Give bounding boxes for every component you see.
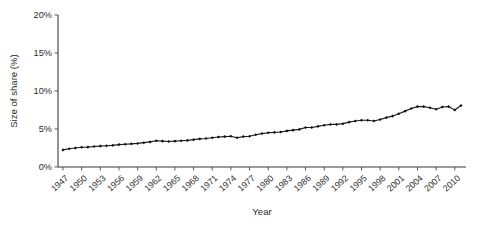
x-tick-label-8: 1971 [198, 173, 219, 194]
x-tick-label-6: 1965 [161, 173, 182, 194]
data-point-15 [155, 139, 158, 142]
data-point-18 [173, 140, 176, 143]
x-tick-label-2: 1953 [86, 173, 107, 194]
y-tick-label-1: 5% [39, 124, 52, 134]
x-tick-label-16: 1995 [348, 173, 369, 194]
data-point-53 [391, 115, 394, 118]
x-tick-label-3: 1956 [105, 173, 126, 194]
y-tick-label-4: 20% [34, 10, 52, 20]
x-tick-label-11: 1980 [254, 173, 275, 194]
x-tick-label-7: 1968 [180, 173, 201, 194]
data-point-33 [267, 131, 270, 134]
data-point-60 [435, 108, 438, 111]
data-point-8 [111, 144, 114, 147]
x-tick-label-0: 1947 [49, 173, 70, 194]
data-point-34 [273, 131, 276, 134]
data-point-50 [372, 119, 375, 122]
x-tick-label-17: 1998 [366, 173, 387, 194]
data-point-58 [422, 105, 425, 108]
y-tick-label-3: 15% [34, 48, 52, 58]
data-series-size-of-share [61, 104, 462, 152]
data-point-40 [310, 126, 313, 129]
data-point-6 [99, 145, 102, 148]
series-line [63, 105, 461, 149]
x-tick-label-20: 2007 [422, 173, 443, 194]
data-point-17 [167, 140, 170, 143]
data-point-49 [366, 119, 369, 122]
x-tick-label-15: 1992 [329, 173, 350, 194]
data-point-36 [285, 129, 288, 132]
x-tick-label-9: 1974 [217, 173, 238, 194]
data-point-19 [180, 139, 183, 142]
x-tick-label-19: 2004 [404, 173, 425, 194]
data-point-4 [86, 146, 89, 149]
y-axis [55, 15, 59, 167]
x-tick-label-14: 1989 [310, 173, 331, 194]
data-point-30 [248, 135, 251, 138]
data-point-14 [148, 140, 151, 143]
data-point-21 [192, 138, 195, 141]
data-point-39 [304, 126, 307, 129]
x-tick-label-21: 2010 [441, 173, 462, 194]
data-point-57 [416, 105, 419, 108]
data-point-26 [223, 135, 226, 138]
x-tick-labels: 1947195019531956195919621965196819711974… [49, 173, 462, 194]
data-point-28 [236, 136, 239, 139]
x-tick-label-13: 1986 [292, 173, 313, 194]
y-axis-title: Size of share (%) [8, 54, 19, 128]
data-point-7 [105, 144, 108, 147]
data-point-46 [348, 121, 351, 124]
data-point-47 [354, 119, 357, 122]
data-point-31 [254, 133, 257, 136]
data-point-45 [341, 122, 344, 125]
data-point-52 [385, 116, 388, 119]
x-axis [58, 167, 466, 171]
data-point-38 [298, 128, 301, 131]
data-point-5 [93, 145, 96, 148]
x-tick-label-5: 1962 [142, 173, 163, 194]
data-point-35 [279, 130, 282, 133]
data-point-11 [130, 142, 133, 145]
data-point-10 [124, 143, 127, 146]
data-point-27 [229, 135, 232, 138]
x-axis-title: Year [252, 206, 272, 217]
y-tick-labels: 0%5%10%15%20% [34, 10, 52, 172]
data-point-23 [204, 137, 207, 140]
x-tick-label-12: 1983 [273, 173, 294, 194]
x-tick-label-1: 1950 [68, 173, 89, 194]
data-point-25 [217, 135, 220, 138]
data-point-20 [186, 139, 189, 142]
data-point-51 [379, 118, 382, 121]
data-point-43 [329, 123, 332, 126]
data-point-1 [68, 147, 71, 150]
data-point-61 [441, 105, 444, 108]
data-point-12 [136, 142, 139, 145]
x-tick-label-4: 1959 [124, 173, 145, 194]
line-chart-svg: 0%5%10%15%20% 19471950195319561959196219… [0, 0, 479, 228]
data-point-32 [260, 132, 263, 135]
y-tick-label-2: 10% [34, 86, 52, 96]
data-point-3 [80, 146, 83, 149]
chart-figure: 0%5%10%15%20% 19471950195319561959196219… [0, 0, 479, 228]
y-tick-label-0: 0% [39, 162, 52, 172]
data-point-44 [335, 123, 338, 126]
data-point-0 [61, 148, 64, 151]
data-point-16 [161, 140, 164, 143]
x-tick-label-10: 1977 [236, 173, 257, 194]
data-point-22 [198, 137, 201, 140]
data-point-29 [242, 135, 245, 138]
data-point-41 [316, 125, 319, 128]
data-point-42 [323, 124, 326, 127]
data-point-24 [211, 136, 214, 139]
data-point-9 [117, 143, 120, 146]
data-point-2 [74, 146, 77, 149]
data-point-59 [428, 106, 431, 109]
data-point-48 [360, 119, 363, 122]
data-point-13 [142, 141, 145, 144]
x-tick-label-18: 2001 [385, 173, 406, 194]
data-point-37 [292, 129, 295, 132]
